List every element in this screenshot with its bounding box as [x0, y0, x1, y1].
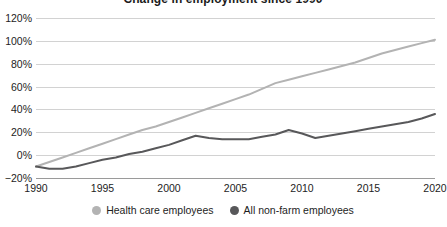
- x-tick-label: 2020: [423, 183, 446, 194]
- x-tick-label: 1990: [24, 183, 47, 194]
- series-line: [36, 40, 435, 167]
- x-tick-label: 2000: [157, 183, 180, 194]
- legend-item[interactable]: Health care employees: [92, 205, 213, 216]
- x-tick-label: 1995: [91, 183, 114, 194]
- x-tick-label: 2010: [290, 183, 313, 194]
- chart-title: Change in employment since 1990: [0, 0, 446, 6]
- x-tick-label: 2015: [357, 183, 380, 194]
- x-tick-label: 2005: [224, 183, 247, 194]
- y-tick-label: 120%: [5, 13, 32, 24]
- y-tick-label: 20%: [11, 127, 32, 138]
- y-tick-label: 100%: [5, 36, 32, 47]
- legend-dot-icon: [230, 206, 239, 215]
- plot-area: 120%100%80%60%40%20%0%−20% 1990199520002…: [36, 18, 435, 178]
- chart-legend: Health care employeesAll non-farm employ…: [0, 205, 446, 216]
- series-line: [36, 114, 435, 169]
- legend-label: All non-farm employees: [244, 205, 354, 216]
- y-tick-label: 0%: [17, 150, 32, 161]
- y-tick-label: 40%: [11, 104, 32, 115]
- x-axis-line: [36, 178, 435, 179]
- legend-label: Health care employees: [106, 205, 213, 216]
- legend-item[interactable]: All non-farm employees: [230, 205, 354, 216]
- y-tick-label: 80%: [11, 58, 32, 69]
- legend-dot-icon: [92, 206, 101, 215]
- series-lines: [36, 18, 435, 178]
- y-tick-label: 60%: [11, 81, 32, 92]
